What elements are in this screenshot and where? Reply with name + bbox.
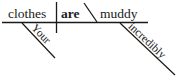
- word-subject: clothes: [8, 6, 46, 21]
- predicate-adjective-slant: [84, 3, 97, 22]
- sentence-diagram: clothes are muddy Your incredibly: [0, 0, 178, 76]
- word-verb: are: [61, 6, 80, 21]
- word-predicate-adjective: muddy: [100, 6, 138, 21]
- word-adjective-modifier: incredibly: [126, 20, 169, 62]
- word-adjective-modifier-group: incredibly: [126, 20, 169, 62]
- diagram-canvas: clothes are muddy Your incredibly: [0, 0, 178, 76]
- word-subject-modifier: Your: [29, 21, 53, 46]
- word-subject-modifier-group: Your: [29, 21, 53, 46]
